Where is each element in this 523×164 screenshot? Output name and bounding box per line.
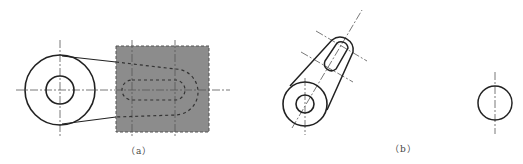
figure-a-label: （a） xyxy=(126,144,152,157)
oblique-slot xyxy=(324,42,348,71)
figure-b xyxy=(283,10,512,135)
shaded-plate xyxy=(116,46,209,132)
technical-drawing xyxy=(0,0,523,164)
figure-b-label: （b） xyxy=(390,142,417,155)
figure-a xyxy=(16,40,230,138)
oblique-arm xyxy=(290,37,353,110)
